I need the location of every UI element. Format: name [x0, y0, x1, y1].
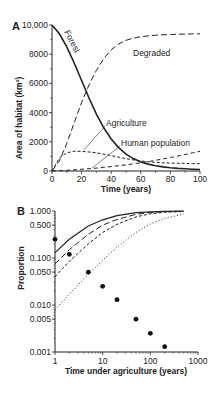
panel-b-x-tick: 100	[143, 356, 157, 366]
panel-a-y-tick: 2000	[29, 137, 48, 147]
panel-b-series	[53, 211, 184, 349]
agriculture-leader-line	[84, 126, 105, 150]
panel-b-x-axis-title: Time under agriculture (years)	[65, 366, 187, 376]
agriculture-annotation: Agriculture	[106, 118, 147, 128]
panel-b-y-tick: 0.005	[30, 314, 52, 324]
series-curve-1	[55, 211, 184, 252]
panel-b: B 1.0000.5000.1000.0500.0100.0050.001110…	[16, 205, 208, 376]
panel-a-label: A	[12, 20, 20, 32]
data-point	[100, 284, 105, 289]
panel-a-x-tick: 0	[50, 174, 55, 184]
data-point	[67, 252, 72, 257]
panel-a-axes: 0200040006000800010,000020406080100	[22, 20, 207, 184]
panel-b-x-tick: 10	[98, 356, 108, 366]
panel-b-y-tick: 0.050	[30, 267, 52, 277]
panel-b-x-tick: 1000	[189, 356, 208, 366]
panel-b-y-tick: 0.500	[30, 220, 52, 230]
series-curve-3	[55, 211, 184, 276]
panel-a-x-tick: 60	[136, 174, 146, 184]
panel-a-x-tick: 80	[166, 174, 176, 184]
panel-b-axes: 1.0000.5000.1000.0500.0100.0050.00111010…	[30, 206, 208, 366]
degraded-annotation: Degraded	[133, 48, 171, 58]
series-curve-4	[55, 214, 184, 310]
data-point	[162, 344, 167, 349]
panel-a-y-tick: 4000	[29, 108, 48, 118]
human-population-annotation: Human population	[121, 138, 190, 148]
panel-a-x-tick: 20	[77, 174, 87, 184]
panel-a-x-tick: 40	[106, 174, 116, 184]
panel-a: A 0200040006000800010,000020406080100 Fo…	[12, 20, 207, 194]
panel-b-x-tick: 1	[53, 356, 58, 366]
human-population-leader-line	[92, 146, 120, 168]
panel-b-y-tick: 0.001	[30, 347, 52, 357]
series-degraded	[52, 34, 200, 171]
data-point	[86, 270, 91, 275]
data-point	[134, 317, 139, 322]
figure: A 0200040006000800010,000020406080100 Fo…	[0, 0, 216, 395]
panel-a-y-tick: 0	[43, 166, 48, 176]
panel-b-y-tick: 1.000	[30, 206, 52, 216]
panel-a-y-tick: 10,000	[22, 20, 48, 30]
data-point	[53, 237, 58, 242]
forest-annotation: Forest	[62, 28, 82, 55]
panel-b-y-tick: 0.010	[30, 300, 52, 310]
panel-b-y-tick: 0.100	[30, 253, 52, 263]
panel-a-x-tick: 100	[193, 174, 207, 184]
panel-a-y-axis-title: Area of habitat (km²)	[14, 77, 24, 160]
panel-b-label: B	[17, 205, 25, 217]
data-point	[148, 331, 153, 336]
panel-b-y-axis-title: Proportion	[16, 246, 26, 289]
panel-a-x-axis-title: Time (years)	[101, 184, 151, 194]
panel-a-y-tick: 6000	[29, 78, 48, 88]
data-point	[115, 297, 120, 302]
series-curve-2	[55, 211, 184, 264]
panel-a-y-tick: 8000	[29, 49, 48, 59]
